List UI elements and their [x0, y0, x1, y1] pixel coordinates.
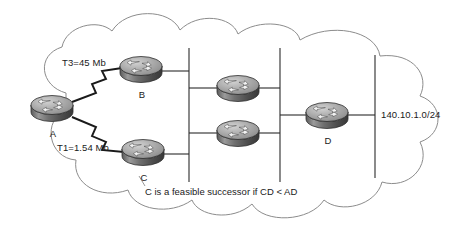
router-a[interactable] [31, 96, 73, 122]
link-label-t1: T1=1.54 Mb [57, 143, 109, 153]
router-b[interactable] [120, 57, 162, 83]
diagram-caption: C is a feasible successor if CD < AD [145, 186, 297, 197]
diagram-canvas: T3=45 Mb T1=1.54 Mb A B C D 140.10.1.0/2… [0, 0, 458, 239]
router-a-label: A [44, 128, 62, 139]
router-d[interactable] [306, 103, 348, 129]
network-address-label: 140.10.1.0/24 [381, 110, 440, 120]
router-d-label: D [319, 135, 337, 146]
link-label-t3: T3=45 Mb [62, 58, 106, 68]
router-core-upper[interactable] [217, 76, 259, 102]
router-b-label: B [133, 89, 151, 100]
router-core-lower[interactable] [217, 121, 259, 147]
router-c-label: C [135, 172, 153, 183]
router-c[interactable] [122, 140, 164, 166]
